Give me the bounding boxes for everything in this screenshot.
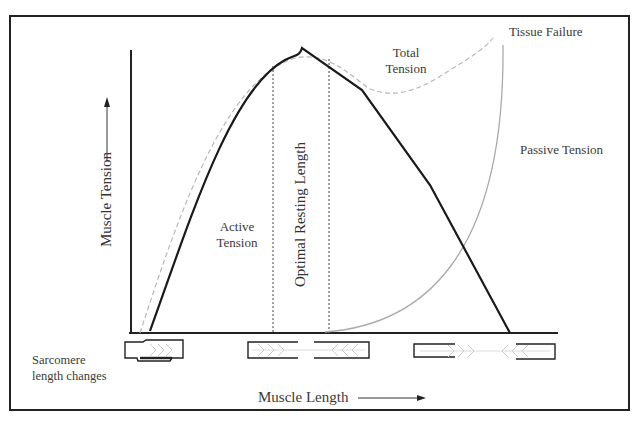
sarcomere-label: Sarcomere length changes	[32, 352, 107, 384]
total-tension-label-line1: Total	[381, 45, 431, 61]
x-axis-label: Muscle Length	[258, 388, 348, 406]
sarcomere-label-line1: Sarcomere	[32, 352, 107, 368]
y-axis-label: Muscle Tension	[98, 152, 115, 247]
active-tension-curve	[150, 48, 510, 333]
passive-tension-label: Passive Tension	[520, 142, 603, 158]
active-tension-label: Active Tension	[210, 219, 264, 251]
optimal-resting-length-label: Optimal Resting Length	[292, 142, 309, 287]
total-tension-curve	[140, 38, 493, 333]
passive-tension-curve	[325, 45, 503, 332]
sarcomere-shortened-icon	[125, 340, 183, 361]
total-tension-label: Total Tension	[381, 45, 431, 77]
total-tension-label-line2: Tension	[381, 61, 431, 77]
sarcomere-lengthened-icon	[414, 344, 555, 359]
active-tension-label-line2: Tension	[210, 235, 264, 251]
sarcomere-optimal-icon	[248, 342, 369, 358]
tissue-failure-label: Tissue Failure	[509, 24, 583, 40]
sarcomere-label-line2: length changes	[32, 368, 107, 384]
active-tension-label-line1: Active	[210, 219, 264, 235]
